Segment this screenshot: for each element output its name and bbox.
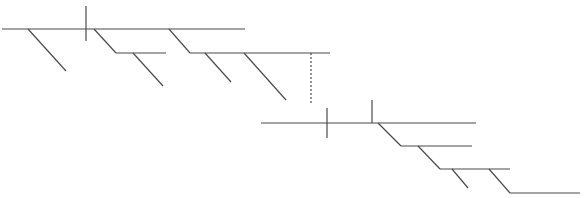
modifier-line: [169, 29, 190, 53]
modifier-line: [28, 29, 66, 71]
modifier-line: [244, 53, 286, 100]
lower-clause: [261, 100, 580, 193]
modifier-line: [452, 169, 468, 188]
modifier-line: [205, 53, 231, 82]
modifier-line: [489, 169, 510, 193]
modifier-line: [378, 123, 401, 146]
modifier-line: [94, 29, 116, 53]
modifier-line: [418, 146, 440, 169]
sentence-diagram: [0, 0, 586, 198]
upper-clause: [2, 6, 330, 100]
modifier-line: [133, 53, 163, 86]
